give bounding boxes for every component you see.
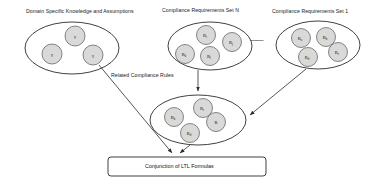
output-box-label: Conjunction of LTL Formulas <box>145 163 214 169</box>
group-label-compliance-set-n: Compliance Requirements Set N <box>162 8 239 13</box>
diagram-graphics: γ γ γ Ri Rj Rk Rl Ra Rb Rc <box>0 0 376 183</box>
group-label-compliance-set-1: Compliance Requirements Set 1 <box>272 9 348 14</box>
node-label-dk1: γ <box>74 34 76 39</box>
arrow-set1-to-related <box>250 69 306 115</box>
diagram-canvas: γ γ γ Ri Rj Rk Rl Ra Rb Rc <box>0 0 376 183</box>
group-ellipse-compliance-set-1 <box>276 21 360 69</box>
node-label-dk3: γ <box>92 53 94 58</box>
group-label-domain-knowledge: Domain Specific Knowledge and Assumption… <box>26 9 134 14</box>
set-ellipsis-separator: —— <box>250 36 263 43</box>
group-label-related-rules: Related Compliance Rules <box>111 73 174 78</box>
arrow-related-to-output <box>180 145 190 153</box>
node-label-dk2: γ <box>51 52 53 57</box>
